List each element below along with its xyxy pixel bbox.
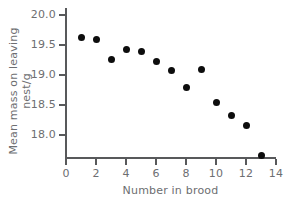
data-point <box>168 67 175 74</box>
data-point <box>93 36 100 43</box>
data-point <box>78 34 85 41</box>
data-point <box>153 58 160 65</box>
data-point <box>258 152 265 159</box>
data-point <box>108 56 115 63</box>
data-point <box>243 122 250 129</box>
data-point <box>228 112 235 119</box>
data-point <box>138 48 145 55</box>
data-point <box>198 66 205 73</box>
data-point <box>123 46 130 53</box>
x-axis-title: Number in brood <box>65 184 276 197</box>
scatter-plot: 20.019.519.018.518.0 02468101214 Number … <box>0 0 288 202</box>
data-point <box>183 84 190 91</box>
y-axis-title: Mean mass on leaving nest/g <box>7 11 33 171</box>
data-point <box>213 99 220 106</box>
plot-area <box>0 0 288 202</box>
